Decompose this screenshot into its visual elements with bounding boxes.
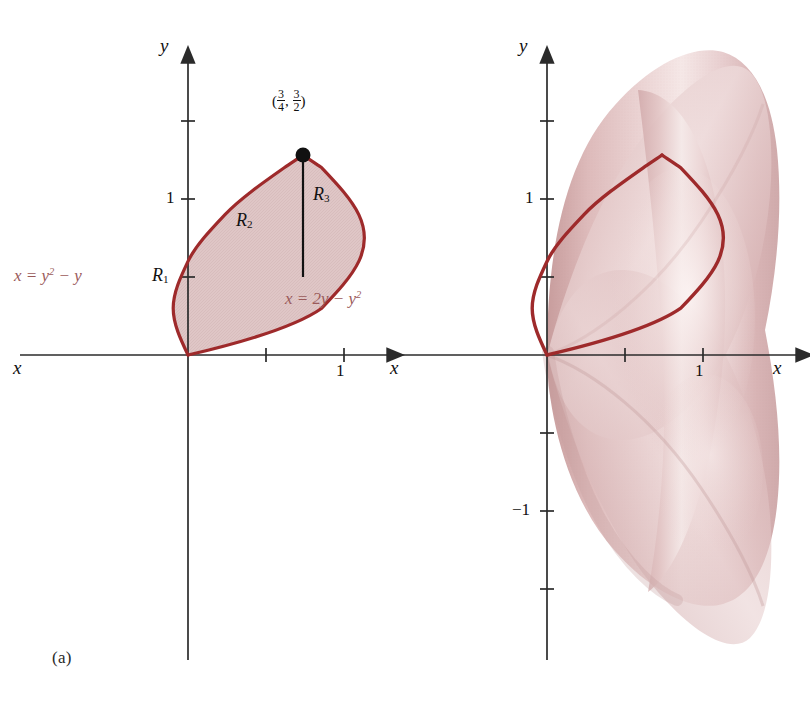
figure-root: y x 1 1 (34, 32) R1 R2 R3 x = y2 − y x =… [0, 0, 810, 713]
intersection-point-dot [296, 148, 311, 163]
region-R3-base: R [313, 184, 324, 204]
region-R2-sub: 2 [247, 218, 253, 230]
panel-a-svg [0, 0, 405, 660]
right-eq-head: x = 2y − y [285, 289, 356, 308]
panel-b-svg [405, 0, 810, 660]
comma: , [285, 93, 293, 109]
y-tick-label-1-a: 1 [166, 189, 175, 206]
frac-den-y: 2 [293, 101, 301, 113]
panel-a-region-diagram: y x 1 1 (34, 32) R1 R2 R3 x = y2 − y x =… [0, 0, 405, 713]
solid-highlight-lower [647, 374, 763, 566]
y-axis-label-a: y [160, 36, 168, 55]
region-label-R3: R3 [313, 185, 330, 204]
paren-close: ) [301, 93, 306, 109]
left-curve-equation-label: x = y2 − y [14, 267, 82, 284]
frac-den-x: 4 [277, 101, 285, 113]
left-eq-head: x = y [14, 266, 49, 285]
y-tick-label-neg1-b: −1 [512, 501, 530, 518]
y-axis-label-b: y [519, 36, 527, 55]
fraction-three-fourths: 34 [277, 88, 285, 114]
right-eq-exponent: 2 [356, 289, 361, 300]
left-eq-tail: − y [54, 266, 82, 285]
x-tick-label-1-b: 1 [695, 362, 704, 379]
fraction-three-halves: 32 [293, 88, 301, 114]
right-curve-equation-label: x = 2y − y2 [285, 290, 361, 307]
axes-group [20, 62, 388, 660]
region-R1-base: R [152, 265, 163, 285]
region-R1-sub: 1 [163, 273, 169, 285]
frac-num-x: 3 [277, 88, 285, 101]
x-tick-label-1-a: 1 [336, 362, 345, 379]
frac-num-y: 3 [293, 88, 301, 101]
x-axis-label-a: x [390, 358, 398, 377]
y-tick-label-1-b: 1 [525, 189, 534, 206]
region-R2-base: R [236, 210, 247, 230]
caption-a: (a) [52, 648, 457, 668]
intersection-point-label: (34, 32) [272, 88, 306, 114]
x-axis-label-b: x [773, 358, 781, 377]
x-axis-label-b-left: x [13, 358, 21, 377]
region-label-R1: R1 [152, 266, 169, 285]
region-R3-sub: 3 [324, 192, 330, 204]
panel-b-solid-of-revolution: y x x 1 1 −1 (b) [405, 0, 810, 713]
region-label-R2: R2 [236, 211, 253, 230]
